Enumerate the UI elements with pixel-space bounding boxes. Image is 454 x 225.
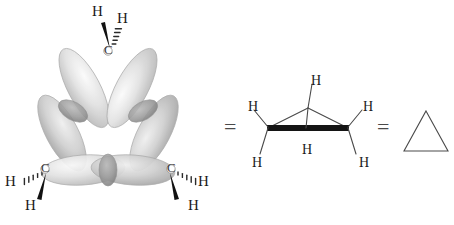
wedge-bond bbox=[170, 173, 179, 200]
line-hydrogen-label-apex-up: H bbox=[311, 74, 321, 88]
orbital-hydrogen-label-top-left: H bbox=[92, 4, 103, 19]
hash-bond bbox=[112, 29, 121, 44]
orbital-hydrogen-label-right-bottom: H bbox=[188, 198, 199, 213]
equals-sign-second: = bbox=[377, 116, 389, 138]
orbital-carbon-label-bottom-right: C bbox=[167, 161, 176, 174]
orbital-carbon-label-bottom-left: C bbox=[41, 161, 50, 174]
cyclopropane-figure: C C C H H H H H H = bbox=[0, 0, 454, 225]
line-structure-panel bbox=[248, 70, 368, 180]
skeletal-triangle-svg bbox=[402, 106, 452, 156]
line-hydrogen-label-right-up: H bbox=[363, 100, 373, 114]
line-hydrogen-label-apex-down: H bbox=[302, 143, 312, 157]
cyclopropane-triangle bbox=[404, 111, 448, 151]
line-hydrogen-label-left-down: H bbox=[252, 156, 262, 170]
orbital-hydrogen-label-left-side: H bbox=[5, 174, 16, 189]
orbital-hydrogen-label-top-right: H bbox=[117, 11, 128, 26]
orbital-hydrogen-label-left-bottom: H bbox=[25, 198, 36, 213]
hash-bond bbox=[178, 172, 196, 185]
orbital-hydrogen-label-right-side: H bbox=[198, 174, 209, 189]
equals-sign-first: = bbox=[224, 116, 236, 138]
orbital-carbon-label-top: C bbox=[104, 43, 113, 56]
hash-bond bbox=[24, 172, 42, 185]
wedge-bond bbox=[37, 173, 46, 200]
orbital-model-svg bbox=[0, 0, 220, 225]
line-structure-svg bbox=[248, 70, 368, 180]
bold-front-bond bbox=[267, 125, 349, 131]
orbital-model-panel: C C C H H H H H H bbox=[0, 0, 220, 225]
orbital-overlap-region bbox=[99, 154, 117, 186]
line-hydrogen-label-left-up: H bbox=[248, 100, 258, 114]
skeletal-structure-panel bbox=[402, 106, 452, 156]
line-hydrogen-label-right-down: H bbox=[359, 156, 369, 170]
